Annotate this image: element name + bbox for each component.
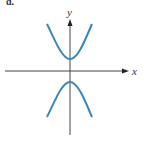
x-axis-arrow-icon — [122, 69, 129, 74]
y-axis-label: y — [66, 6, 72, 18]
x-axis-label: x — [131, 65, 137, 77]
hyperbola-graph: x y — [0, 0, 144, 141]
y-axis-arrow-icon — [68, 19, 73, 26]
